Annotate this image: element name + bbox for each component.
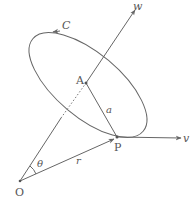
- label-o: O: [15, 186, 24, 199]
- label-w: w: [133, 0, 143, 13]
- curve-direction-arrow: [53, 31, 60, 32]
- point-p: [116, 136, 119, 139]
- axis-segment-hidden: [61, 83, 86, 118]
- label-a-radius: a: [106, 104, 112, 115]
- label-p: P: [114, 141, 122, 154]
- label-a-point: A: [75, 74, 85, 87]
- diagram-canvas: C w v A a P O θ r: [0, 0, 193, 203]
- label-r: r: [76, 155, 82, 166]
- circle-c: [12, 14, 163, 156]
- label-theta: θ: [37, 158, 43, 169]
- label-c: C: [62, 19, 71, 32]
- point-a: [85, 82, 88, 85]
- point-o: [19, 180, 22, 183]
- radius-a: [86, 83, 117, 137]
- label-v: v: [183, 132, 190, 145]
- axis-w: [86, 10, 135, 83]
- angle-theta-arc: [30, 166, 36, 174]
